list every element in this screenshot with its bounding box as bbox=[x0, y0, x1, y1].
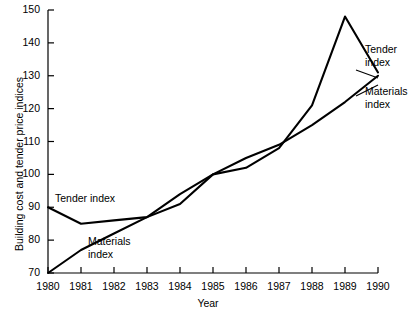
line-chart-plot bbox=[0, 0, 417, 318]
annotation-materials-index-right: Materials index bbox=[365, 85, 408, 110]
x-axis-ticks bbox=[48, 267, 378, 273]
y-axis-label: Building cost and tender price indices bbox=[13, 54, 25, 274]
x-tick-label: 1990 bbox=[358, 280, 398, 292]
y-axis-ticks bbox=[48, 10, 54, 273]
annotation-tender-index-left: Tender index bbox=[55, 192, 115, 205]
x-axis-label: Year bbox=[148, 297, 268, 309]
annotation-tender-index-right: Tender index bbox=[365, 43, 397, 68]
chart-figure: 708090100110120130140150 198019811982198… bbox=[0, 0, 417, 318]
y-tick-label: 150 bbox=[6, 3, 40, 15]
annotation-materials-index-left: Materials index bbox=[88, 235, 131, 260]
axis-lines bbox=[48, 10, 378, 273]
y-tick-label: 140 bbox=[6, 36, 40, 48]
